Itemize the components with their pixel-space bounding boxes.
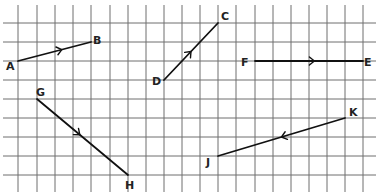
point-label-b: B bbox=[93, 34, 101, 47]
point-label-j: J bbox=[205, 156, 210, 169]
vector-grid-diagram: ABDCFEGHKJ bbox=[0, 0, 379, 192]
point-label-k: K bbox=[349, 106, 358, 119]
grid bbox=[3, 5, 376, 192]
point-label-f: F bbox=[241, 56, 249, 69]
point-label-a: A bbox=[6, 60, 15, 73]
point-label-e: E bbox=[364, 56, 372, 69]
point-labels: ABDCFEGHKJ bbox=[6, 10, 372, 192]
point-label-c: C bbox=[221, 10, 229, 23]
point-label-d: D bbox=[152, 75, 161, 88]
point-label-g: G bbox=[36, 86, 45, 99]
vector-dc bbox=[164, 23, 218, 80]
point-label-h: H bbox=[125, 179, 134, 192]
